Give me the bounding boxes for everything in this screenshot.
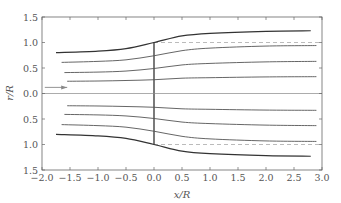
x-tick-label: 2.0 [258,172,273,183]
y-tick-label: 0.5 [23,63,38,74]
y-tick-label: 1.0 [23,139,38,150]
streamline [62,125,317,142]
streamline [64,114,316,125]
streamline [56,31,311,53]
y-tick-label: 0.5 [23,114,38,125]
plot-area [42,31,322,156]
x-tick-label: −0.5 [114,172,137,183]
x-tick-label: 0.5 [174,172,189,183]
x-axis-label: x/R [174,189,191,200]
streamline [56,134,311,156]
x-tick-label: 3.0 [314,172,329,183]
streamline [64,61,316,72]
x-tick-label: 2.5 [286,172,301,183]
streamline [62,46,317,63]
y-axis-label: r/R [4,85,15,101]
y-tick-label: 1.0 [23,37,38,48]
x-tick-label: −1.0 [86,172,109,183]
x-tick-label: 1.5 [230,172,245,183]
y-tick-label: 1.5 [23,12,38,23]
x-tick-label: 0.0 [146,172,161,183]
streamline [67,106,316,111]
x-axis-ticks: −2.0−1.5−1.0−0.50.00.51.01.52.02.53.0 [30,17,329,183]
x-tick-label: −1.5 [58,172,81,183]
y-tick-label: 1.5 [23,165,38,176]
x-tick-label: 1.0 [202,172,217,183]
streamline [67,77,316,82]
flow-arrow-icon [61,85,67,89]
y-tick-label: 0.0 [23,88,38,99]
streamline-chart: −2.0−1.5−1.0−0.50.00.51.01.52.02.53.0 1.… [0,0,341,203]
